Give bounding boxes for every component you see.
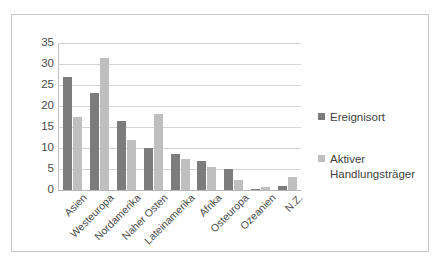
bar[interactable] xyxy=(73,117,82,191)
x-axis-category-labels: AsienWesteuropaNordamerikaNaher OstenLat… xyxy=(58,192,301,254)
bar[interactable] xyxy=(224,169,233,190)
legend-swatch-icon xyxy=(318,155,325,162)
plot-area xyxy=(58,43,301,190)
bar[interactable] xyxy=(251,189,260,190)
y-axis-tick-label: 0 xyxy=(48,184,54,196)
legend-swatch-icon xyxy=(318,113,325,120)
bar[interactable] xyxy=(127,140,136,190)
y-axis-tick-label: 30 xyxy=(41,58,54,70)
bar[interactable] xyxy=(154,114,163,190)
bar-group xyxy=(113,43,140,190)
y-axis-tick-label: 25 xyxy=(41,79,54,91)
bar-group xyxy=(247,43,274,190)
legend-label: Ereignisort xyxy=(330,110,385,126)
bar[interactable] xyxy=(171,154,180,190)
bar-group xyxy=(193,43,220,190)
bar-group xyxy=(59,43,86,190)
bar[interactable] xyxy=(197,161,206,190)
bar[interactable] xyxy=(100,58,109,190)
legend-item[interactable]: Ereignisort xyxy=(318,110,433,126)
bar[interactable] xyxy=(63,77,72,190)
bar[interactable] xyxy=(117,121,126,190)
bar-group xyxy=(274,43,301,190)
bar[interactable] xyxy=(288,177,297,190)
y-axis-tick-label: 15 xyxy=(41,121,54,133)
y-axis-tick-label: 10 xyxy=(41,142,54,154)
bar-group xyxy=(167,43,194,190)
bar[interactable] xyxy=(144,148,153,190)
bar-groups xyxy=(59,43,301,190)
y-axis-tick-labels: 35302520151050 xyxy=(24,43,54,190)
bar[interactable] xyxy=(234,180,243,191)
bar[interactable] xyxy=(261,187,270,190)
legend-label: Aktiver Handlungsträger xyxy=(330,152,433,183)
legend-item[interactable]: Aktiver Handlungsträger xyxy=(318,152,433,183)
gridline xyxy=(58,190,301,191)
y-axis-tick-label: 35 xyxy=(41,37,54,49)
x-axis-tick-label: N.Z. xyxy=(282,192,304,214)
bar-group xyxy=(140,43,167,190)
bar[interactable] xyxy=(278,186,287,190)
bar-group xyxy=(220,43,247,190)
y-axis-tick-label: 5 xyxy=(48,163,54,175)
bar-group xyxy=(86,43,113,190)
bar[interactable] xyxy=(181,159,190,191)
bar[interactable] xyxy=(90,93,99,190)
chart-legend: EreignisortAktiver Handlungsträger xyxy=(318,110,433,209)
chart-container: 35302520151050 AsienWesteuropaNordamerik… xyxy=(0,0,440,267)
bar[interactable] xyxy=(207,167,216,190)
chart-frame: 35302520151050 AsienWesteuropaNordamerik… xyxy=(11,14,429,252)
y-axis-tick-label: 20 xyxy=(41,100,54,112)
